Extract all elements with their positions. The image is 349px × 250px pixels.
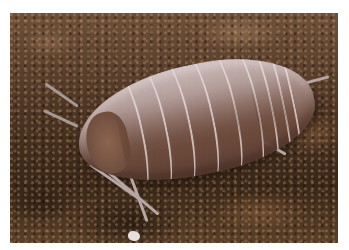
white-pebble (128, 231, 140, 241)
photo (10, 13, 338, 243)
